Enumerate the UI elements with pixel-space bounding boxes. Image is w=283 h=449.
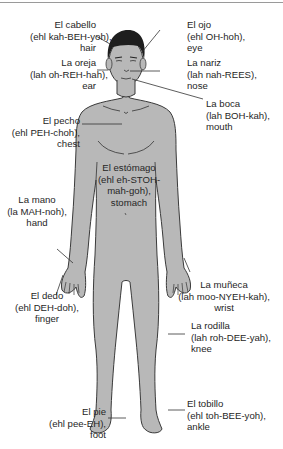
label-ankle: El tobillo (ehl toh-BEE-yoh), ankle <box>187 398 266 433</box>
label-mouth: La boca (lah BOH-kah), mouth <box>206 98 270 133</box>
label-english: nose <box>187 80 257 92</box>
label-pronunciation-2: mah-goh), <box>96 185 162 197</box>
label-spanish: La boca <box>206 98 270 110</box>
label-spanish: La nariz <box>187 57 257 69</box>
label-ear: La oreja (lah oh-REH-hah), ear <box>30 57 96 92</box>
label-english: eye <box>187 42 245 54</box>
label-english: ear <box>30 80 96 92</box>
label-hand: La mano (la MAH-noh), hand <box>2 194 72 229</box>
label-finger: El dedo (ehl DEH-doh), finger <box>12 290 82 325</box>
label-spanish: La mano <box>2 194 72 206</box>
label-pronunciation: (lah nah-REES), <box>187 69 257 81</box>
label-english: knee <box>191 343 271 355</box>
label-pronunciation: (lah roh-DEE-yah), <box>191 332 271 344</box>
right-ear <box>140 58 146 70</box>
body-silhouette <box>61 82 190 433</box>
label-english: mouth <box>206 121 270 133</box>
label-eye: El ojo (ehl OH-hoh), eye <box>187 19 245 54</box>
label-pronunciation: (ehl OH-hoh), <box>187 31 245 43</box>
label-chest: El pecho (ehl PEH-choh), chest <box>2 115 80 150</box>
label-pronunciation-1: (ehl eh-STOH- <box>96 174 162 186</box>
label-pronunciation: (ehl pee-EH), <box>30 418 106 430</box>
label-spanish: El pie <box>30 406 106 418</box>
label-hair: El cabello (ehl kah-BEH-yoh), hair <box>30 19 96 54</box>
label-pronunciation: (lah moo-NYEH-kah), <box>176 291 272 303</box>
label-spanish: El estómago <box>96 162 162 174</box>
label-spanish: El pecho <box>2 115 80 127</box>
label-english: hand <box>2 217 72 229</box>
label-english: ankle <box>187 421 266 433</box>
label-spanish: El tobillo <box>187 398 266 410</box>
label-english: wrist <box>176 302 272 314</box>
label-spanish: El dedo <box>12 290 82 302</box>
label-pronunciation: (ehl PEH-choh), <box>2 127 80 139</box>
label-pronunciation: (la MAH-noh), <box>2 206 72 218</box>
label-english: finger <box>12 313 82 325</box>
label-pronunciation: (ehl DEH-doh), <box>12 302 82 314</box>
label-foot: El pie (ehl pee-EH), foot <box>30 406 106 441</box>
label-spanish: La oreja <box>30 57 96 69</box>
label-knee: La rodilla (lah roh-DEE-yah), knee <box>191 320 271 355</box>
label-stomach: El estómago (ehl eh-STOH- mah-goh), stom… <box>96 162 162 208</box>
label-english: hair <box>30 42 96 54</box>
label-pronunciation: (ehl kah-BEH-yoh), <box>30 31 96 43</box>
label-spanish: El cabello <box>30 19 96 31</box>
label-english: stomach <box>96 197 162 209</box>
label-pronunciation: (lah BOH-kah), <box>206 110 270 122</box>
label-pronunciation: (lah oh-REH-hah), <box>30 69 96 81</box>
neck <box>117 80 135 97</box>
label-nose: La nariz (lah nah-REES), nose <box>187 57 257 92</box>
label-spanish: La rodilla <box>191 320 271 332</box>
label-english: chest <box>2 138 80 150</box>
label-wrist: La muñeca (lah moo-NYEH-kah), wrist <box>176 279 272 314</box>
label-pronunciation: (ehl toh-BEE-yoh), <box>187 410 266 422</box>
label-english: foot <box>30 429 106 441</box>
label-spanish: El ojo <box>187 19 245 31</box>
label-spanish: La muñeca <box>176 279 272 291</box>
